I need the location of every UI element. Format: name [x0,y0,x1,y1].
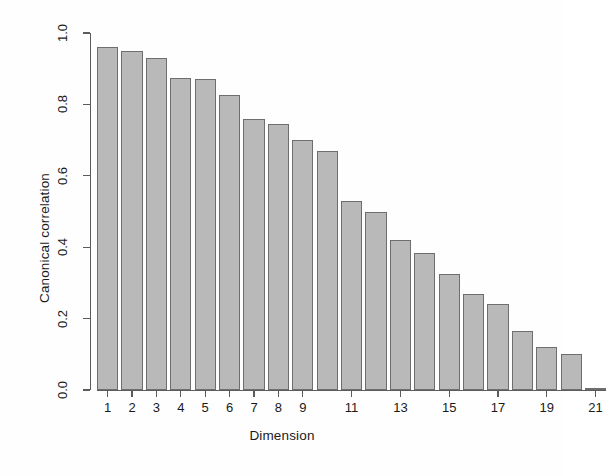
bar [146,58,167,390]
bar [463,294,484,390]
x-tick [351,390,352,397]
bar [121,51,142,390]
x-tick [229,390,230,397]
x-tick-label: 13 [385,400,415,416]
x-tick [156,390,157,397]
bar [341,201,362,390]
x-tick-label: 11 [337,400,367,416]
x-tick [400,390,401,397]
bar [512,331,533,390]
bar [292,140,313,390]
x-tick [449,390,450,397]
x-tick-label: 9 [288,400,318,416]
x-tick-label: 21 [581,400,610,416]
bar [243,119,264,390]
x-tick [205,390,206,397]
x-axis-title: Dimension [0,428,564,443]
x-tick [107,390,108,397]
bar [439,274,460,390]
bar [97,47,118,390]
x-tick-label: 17 [483,400,513,416]
x-tick-label: 15 [434,400,464,416]
bar [487,304,508,390]
bar [195,79,216,390]
x-tick [497,390,498,397]
bar [170,78,191,390]
x-tick [302,390,303,397]
bar [268,124,289,390]
bar [536,347,557,390]
x-tick [546,390,547,397]
x-tick [278,390,279,397]
bar [317,151,338,390]
bar [414,253,435,390]
bar [390,240,411,390]
x-tick [180,390,181,397]
x-tick [253,390,254,397]
bar [365,212,386,391]
x-tick [595,390,596,397]
x-tick-label: 19 [532,400,562,416]
bar [219,95,240,390]
bar [561,354,582,390]
x-tick [131,390,132,397]
